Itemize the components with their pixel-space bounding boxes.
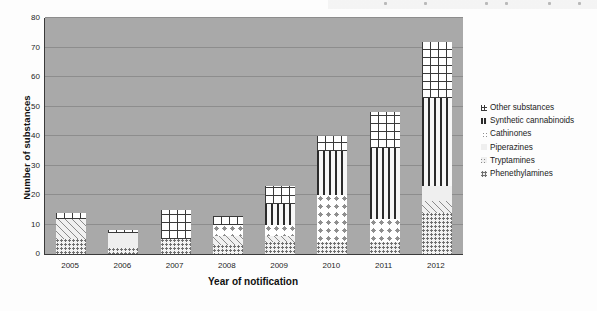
bar-segment-phenethylamines [265,242,295,254]
stacked-bar-chart: 01020304050607080 Number of substances 2… [0,0,597,311]
legend-item-cathinones[interactable]: Cathinones [481,127,593,140]
legend-item-piperazines[interactable]: Piperazines [481,141,593,154]
bar-segment-tryptamines [56,219,86,240]
x-axis-tick-label: 2007 [145,261,205,270]
legend-item-other-substances[interactable]: Other substances [481,101,593,114]
y-axis-tick-label: 0 [18,250,40,258]
stacked-bar[interactable] [213,216,243,254]
chart-legend: Other substancesSynthetic cannabinoidsCa… [481,101,593,180]
stacked-bar[interactable] [108,230,138,254]
bar-segment-phenethylamines [370,242,400,254]
bar-segment-cathinones [370,219,400,243]
legend-label: Piperazines [490,143,533,152]
x-axis-tick-label: 2005 [40,261,100,270]
legend-label: Cathinones [490,129,531,138]
bar-segment-other-substances [161,210,191,240]
legend-label: Tryptamines [490,156,535,165]
bar-segment-other-substances [265,186,295,204]
x-axis-tick-label: 2009 [249,261,309,270]
stacked-bar[interactable] [370,112,400,254]
stacked-bar[interactable] [56,213,86,254]
bar-segment-cathinones [317,195,347,242]
bar-segment-piperazines [422,186,452,201]
x-axis-tick-label: 2010 [301,261,361,270]
bar-segment-synthetic-cannabinoids [317,151,347,195]
bar-segment-other-substances [422,42,452,98]
y-axis-tick-label: 80 [18,14,40,22]
bar-segment-phenethylamines [317,242,347,254]
bar-segment-tryptamines [213,236,243,245]
bar-segment-phenethylamines [422,213,452,254]
y-axis-title-wrapper: Number of substances [8,30,22,210]
bar-segment-tryptamines [422,201,452,213]
stacked-bar[interactable] [265,186,295,254]
legend-swatch-synthetic-cannabinoids [481,118,487,124]
legend-swatch-other-substances [481,105,487,111]
bar-segment-synthetic-cannabinoids [370,148,400,219]
x-axis-tick-label: 2012 [406,261,466,270]
bar-segment-phenethylamines [213,245,243,254]
legend-swatch-piperazines [481,144,487,150]
legend-swatch-tryptamines [481,157,487,163]
bar-segment-cathinones [213,225,243,237]
legend-swatch-phenethylamines [481,171,487,177]
bar-group [45,18,463,254]
bar-segment-synthetic-cannabinoids [422,98,452,187]
bar-segment-phenethylamines [56,239,86,254]
plot-area [44,18,463,255]
bar-segment-other-substances [370,112,400,147]
bar-segment-synthetic-cannabinoids [265,204,295,225]
legend-label: Phenethylamines [490,169,553,178]
bar-segment-other-substances [317,136,347,151]
bar-segment-other-substances [213,216,243,225]
bar-segment-piperazines [108,233,138,248]
x-axis-tick-label: 2011 [354,261,414,270]
stacked-bar[interactable] [161,210,191,254]
x-axis-tick-label: 2008 [197,261,257,270]
bar-segment-phenethylamines [161,239,191,254]
legend-swatch-cathinones [481,131,487,137]
bar-segment-cathinones [265,225,295,237]
bar-segment-phenethylamines [108,248,138,254]
legend-label: Synthetic cannabinoids [490,116,574,125]
legend-item-phenethylamines[interactable]: Phenethylamines [481,167,593,180]
y-axis-title: Number of substances [21,73,32,223]
legend-label: Other substances [490,103,554,112]
legend-item-tryptamines[interactable]: Tryptamines [481,154,593,167]
x-axis-tick-label: 2006 [92,261,152,270]
stacked-bar[interactable] [317,136,347,254]
x-axis-title: Year of notification [44,276,462,287]
stacked-bar[interactable] [422,42,452,254]
legend-item-synthetic-cannabinoids[interactable]: Synthetic cannabinoids [481,114,593,127]
